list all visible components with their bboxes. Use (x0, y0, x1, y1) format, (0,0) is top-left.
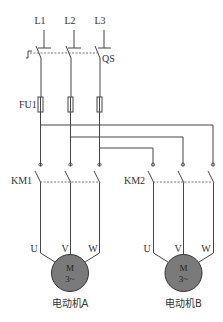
contactor-km2 (148, 163, 215, 183)
contactor-km1 (35, 163, 101, 183)
motor-a: M 3~ (52, 255, 89, 292)
phase-label-l1: L1 (34, 15, 45, 26)
motor-a-terminal-u: U (30, 243, 38, 254)
motor-b-terminal-u: U (143, 243, 151, 254)
motor-b-symbol: M (179, 263, 187, 273)
contactor-km2-label: KM2 (124, 175, 145, 186)
motor-b: M 3~ (165, 255, 202, 292)
motor-a-terminal-v: V (61, 243, 69, 254)
isolator-qs (26, 46, 100, 58)
motor-b-terminal-w: W (201, 243, 211, 254)
branch-wiring (41, 125, 214, 166)
motor-b-phase: 3~ (179, 274, 189, 284)
motor-a-caption: 电动机A (52, 297, 89, 309)
isolator-label: QS (102, 53, 115, 64)
schematic-canvas: L1 L2 L3 QS FU1 (0, 0, 223, 322)
fuses-fu1 (38, 97, 102, 112)
phase-label-l3: L3 (94, 15, 105, 26)
fuse-label: FU1 (19, 99, 37, 110)
phase-label-l2: L2 (64, 15, 75, 26)
supply-terminals (38, 30, 111, 48)
motor-a-phase: 3~ (65, 274, 75, 284)
motor-b-caption: 电动机B (165, 297, 202, 309)
motor-a-terminal-w: W (88, 243, 98, 254)
contactor-km1-label: KM1 (11, 175, 32, 186)
motor-b-terminal-v: V (174, 243, 182, 254)
motor-a-symbol: M (66, 263, 74, 273)
